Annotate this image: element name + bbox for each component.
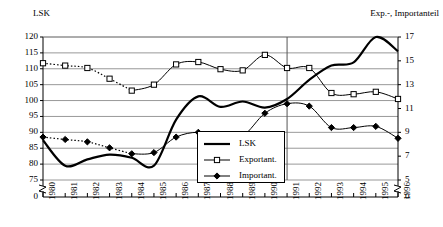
x-tick-1996: 1996	[402, 182, 412, 200]
right-tick-17: 17	[405, 31, 414, 41]
x-tick-1987: 1987	[202, 182, 212, 200]
x-tick-1989: 1989	[247, 182, 257, 200]
left-tick-110: 110	[8, 63, 38, 73]
left-tick-75: 75	[8, 174, 38, 184]
x-tick-1986: 1986	[180, 182, 190, 200]
x-tick-1990: 1990	[269, 182, 279, 200]
x-tick-1991: 1991	[291, 182, 301, 200]
x-tick-1983: 1983	[114, 182, 124, 200]
right-tick-15: 15	[405, 55, 414, 65]
x-tick-1980: 1980	[47, 182, 57, 200]
left-tick-85: 85	[8, 142, 38, 152]
x-tick-1994: 1994	[358, 182, 368, 200]
legend: LSK Exportant. Important.	[197, 131, 285, 183]
left-tick-120: 120	[8, 31, 38, 41]
left-tick-90: 90	[8, 126, 38, 136]
right-tick-11: 11	[405, 103, 414, 113]
left-tick-115: 115	[8, 47, 38, 57]
series-exportant	[40, 52, 400, 101]
x-tick-1992: 1992	[313, 182, 323, 200]
x-tick-1984: 1984	[136, 182, 146, 200]
legend-label-important: Important.	[239, 170, 277, 180]
left-tick-95: 95	[8, 110, 38, 120]
right-tick-9: 9	[405, 126, 410, 136]
legend-label-exportant: Exportant.	[239, 154, 277, 164]
x-tick-1985: 1985	[158, 182, 168, 200]
right-tick-7: 7	[405, 150, 410, 160]
right-tick-13: 13	[405, 79, 414, 89]
left-tick-100: 100	[8, 95, 38, 105]
x-tick-1981: 1981	[69, 182, 79, 200]
x-tick-1988: 1988	[225, 182, 235, 200]
left-tick-105: 105	[8, 79, 38, 89]
legend-label-lsk: LSK	[239, 138, 256, 148]
x-tick-1982: 1982	[91, 182, 101, 200]
left-tick-80: 80	[8, 158, 38, 168]
chart-container: LSK Exp.-, Importanteil 7580859095100105…	[0, 0, 443, 227]
chart-canvas	[0, 0, 443, 227]
x-tick-1995: 1995	[380, 182, 390, 200]
x-tick-1993: 1993	[335, 182, 345, 200]
left-tick-zero: 0	[8, 191, 38, 201]
